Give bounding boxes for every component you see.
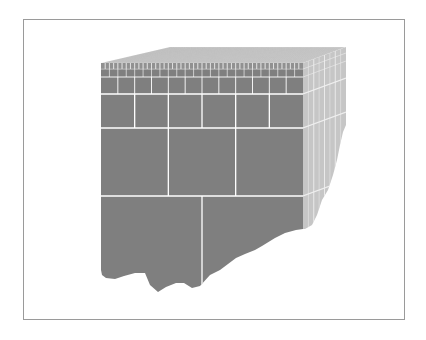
front-face: [101, 63, 303, 292]
top-face: [101, 47, 346, 63]
side-face: [303, 47, 346, 300]
block-diagram: [0, 0, 426, 340]
